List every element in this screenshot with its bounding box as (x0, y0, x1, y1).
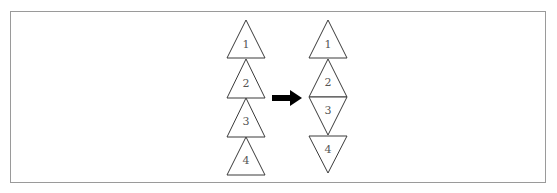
left-stack: 1 2 3 4 (227, 20, 265, 175)
right-triangle-2: 2 (309, 59, 347, 97)
triangle-diagram: 1 2 3 4 1 2 3 (0, 0, 557, 193)
triangle-label: 1 (243, 38, 250, 51)
right-triangle-3-inverted: 3 (309, 97, 347, 135)
triangle-label: 4 (243, 154, 250, 167)
triangle-label: 1 (325, 38, 332, 51)
triangle-label: 2 (325, 76, 332, 89)
left-triangle-4: 4 (227, 137, 265, 175)
triangle-label: 3 (325, 104, 332, 117)
right-stack: 1 2 3 4 (309, 20, 347, 173)
left-triangle-2: 2 (227, 59, 265, 98)
triangle-label: 3 (243, 115, 250, 128)
triangle-label: 4 (325, 143, 332, 156)
right-triangle-4-inverted: 4 (309, 136, 347, 173)
triangle-label: 2 (243, 77, 250, 90)
arrow-right-icon (272, 90, 302, 106)
right-triangle-1: 1 (309, 20, 347, 58)
left-triangle-1: 1 (227, 20, 265, 58)
left-triangle-3: 3 (227, 98, 265, 137)
